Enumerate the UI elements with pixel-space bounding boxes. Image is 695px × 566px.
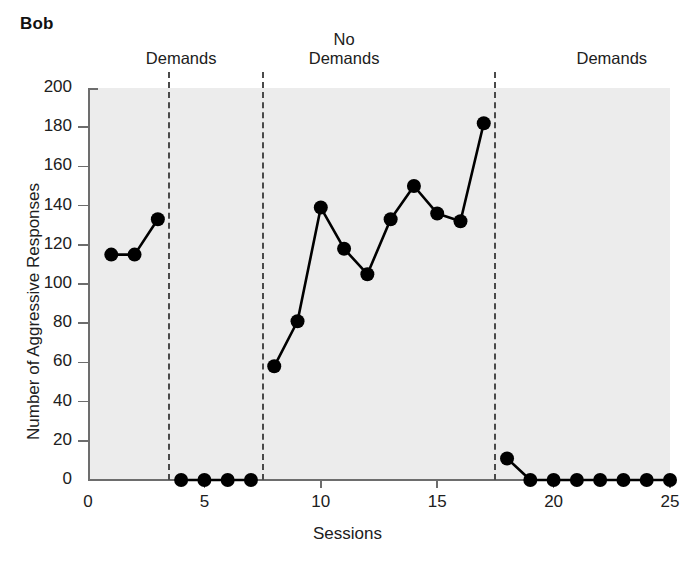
- y-tick-mark: [78, 244, 89, 246]
- x-tick-mark: [669, 479, 671, 488]
- x-axis-title: Sessions: [0, 524, 695, 544]
- y-tick-mark: [78, 440, 89, 442]
- y-tick-label: 200: [12, 77, 72, 97]
- y-tick-mark: [78, 205, 89, 207]
- y-tick-label: 160: [12, 155, 72, 175]
- x-tick-mark: [553, 479, 555, 488]
- x-tick-mark: [436, 479, 438, 488]
- x-axis-line: [88, 479, 670, 481]
- x-tick-label: 0: [63, 492, 113, 512]
- page-title: Bob: [20, 14, 54, 34]
- y-tick-label: 180: [12, 116, 72, 136]
- x-tick-label: 10: [296, 492, 346, 512]
- phase-label: No Demands: [269, 30, 419, 68]
- x-tick-label: 25: [645, 492, 695, 512]
- phase-change-line: [168, 72, 170, 480]
- phase-change-line: [494, 72, 496, 480]
- y-tick-mark: [78, 126, 89, 128]
- phase-change-line: [262, 72, 264, 480]
- x-tick-mark: [320, 479, 322, 488]
- y-tick-label: 0: [12, 469, 72, 489]
- x-tick-mark: [204, 479, 206, 488]
- y-tick-mark: [78, 322, 89, 324]
- y-tick-mark: [78, 283, 89, 285]
- x-tick-label: 20: [529, 492, 579, 512]
- y-axis-title: Number of Aggressive Responses: [24, 183, 44, 440]
- chart-figure: Bob DemandsNo DemandsDemandsNo Demands 0…: [0, 0, 695, 566]
- y-tick-mark: [78, 362, 89, 364]
- phase-label: Demands: [106, 49, 256, 68]
- x-tick-label: 5: [179, 492, 229, 512]
- x-tick-label: 15: [412, 492, 462, 512]
- plot-area: [88, 88, 670, 480]
- phase-label: Demands: [537, 49, 687, 68]
- y-axis-top-cap: [88, 88, 98, 90]
- y-tick-mark: [78, 401, 89, 403]
- y-tick-mark: [78, 166, 89, 168]
